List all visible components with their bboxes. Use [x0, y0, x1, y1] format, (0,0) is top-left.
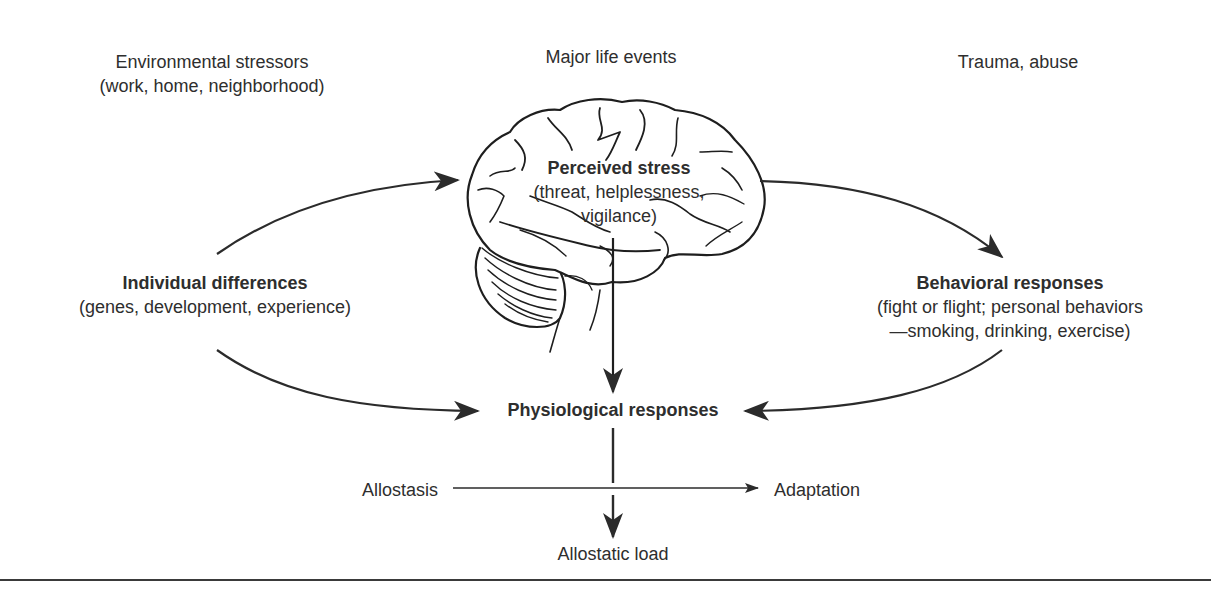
- perceived-stress-node: Perceived stress (threat, helplessness, …: [508, 156, 730, 228]
- stressor-environmental-detail: (work, home, neighborhood): [82, 74, 342, 98]
- perceived-stress-detail-2: vigilance): [508, 204, 730, 228]
- perceived-stress-detail-1: (threat, helplessness,: [508, 180, 730, 204]
- stress-response-diagram: Environmental stressors (work, home, nei…: [0, 0, 1211, 596]
- behavioral-responses-title: Behavioral responses: [840, 271, 1180, 295]
- stressor-major-life-events: Major life events: [516, 45, 706, 69]
- adaptation-label: Adaptation: [762, 478, 872, 502]
- stressor-major-life-events-title: Major life events: [516, 45, 706, 69]
- arrow-individual-to-perceived: [217, 180, 458, 254]
- physiological-responses-node: Physiological responses: [483, 398, 743, 422]
- perceived-stress-title: Perceived stress: [508, 156, 730, 180]
- individual-differences-node: Individual differences (genes, developme…: [40, 271, 390, 319]
- behavioral-responses-detail-2: —smoking, drinking, exercise): [840, 319, 1180, 343]
- individual-differences-title: Individual differences: [40, 271, 390, 295]
- allostasis-label: Allostasis: [350, 478, 450, 502]
- individual-differences-detail: (genes, development, experience): [40, 295, 390, 319]
- physiological-responses-title: Physiological responses: [483, 398, 743, 422]
- stressor-environmental: Environmental stressors (work, home, nei…: [82, 50, 342, 98]
- stressor-trauma-abuse: Trauma, abuse: [928, 50, 1108, 74]
- stressor-trauma-abuse-title: Trauma, abuse: [928, 50, 1108, 74]
- arrow-individual-to-physiological: [217, 350, 478, 411]
- stressor-environmental-title: Environmental stressors: [82, 50, 342, 74]
- behavioral-responses-detail-1: (fight or flight; personal behaviors: [840, 295, 1180, 319]
- behavioral-responses-node: Behavioral responses (fight or flight; p…: [840, 271, 1180, 343]
- arrow-behavioral-to-physiological: [745, 350, 1002, 411]
- allostatic-load-label: Allostatic load: [533, 542, 693, 566]
- bottom-divider: [0, 579, 1211, 581]
- arrow-perceived-to-behavioral: [760, 181, 1002, 257]
